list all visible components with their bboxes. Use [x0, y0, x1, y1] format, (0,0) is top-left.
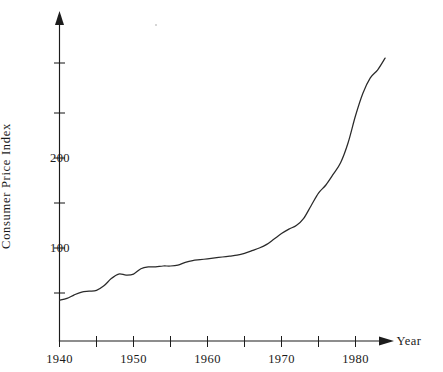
x-axis-title: Year	[396, 334, 421, 349]
x-axis-arrow-icon	[379, 337, 394, 346]
scan-speck	[155, 24, 157, 26]
y-tick-label-100: 100	[50, 241, 70, 256]
chart-plot-area	[0, 0, 443, 372]
y-axis-arrow-icon	[55, 11, 64, 25]
x-tick-label-1970: 1970	[268, 352, 295, 367]
y-axis-title: Consumer Price Index	[0, 123, 14, 249]
y-tick-label-200: 200	[50, 151, 70, 166]
cpi-data-curve	[60, 58, 386, 300]
x-tick-label-1960: 1960	[194, 352, 221, 367]
x-tick-label-1980: 1980	[342, 352, 369, 367]
cpi-line-chart-figure: 100 200 1940 1950 1960 1970 1980 Consume…	[0, 0, 443, 372]
x-tick-label-1940: 1940	[46, 352, 73, 367]
x-tick-label-1950: 1950	[120, 352, 147, 367]
